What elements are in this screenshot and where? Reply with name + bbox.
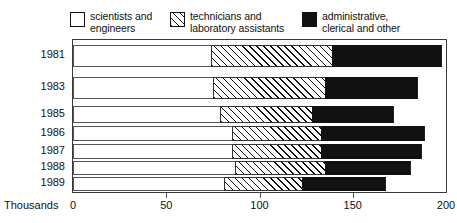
y-tick-label-1981: 1981 — [41, 49, 65, 60]
bar-segment-1985-s0[interactable] — [73, 106, 220, 123]
bar-segment-1987-s2[interactable] — [321, 144, 422, 159]
y-tick-label-1988: 1988 — [41, 161, 65, 172]
x-tick-label-100: 100 — [250, 200, 268, 211]
black-swatch-icon — [302, 12, 317, 27]
bar-row-1989 — [73, 177, 446, 191]
legend-item-scientists-and-engineers: scientists and engineers — [70, 11, 152, 34]
y-axis-labels: 1981198319851986198719881989 — [0, 39, 70, 193]
x-tick-150 — [353, 193, 354, 198]
bar-row-1981 — [73, 45, 446, 67]
bar-segment-1987-s1[interactable] — [232, 144, 322, 159]
y-tick-label-1986: 1986 — [41, 127, 65, 138]
bar-segment-1989-s2[interactable] — [302, 177, 386, 191]
bar-segment-1986-s1[interactable] — [232, 126, 322, 141]
x-tick-100 — [260, 193, 261, 198]
legend-item-administrative-clerical-and-other: administrative, clerical and other — [302, 11, 400, 34]
bar-segment-1981-s2[interactable] — [332, 45, 442, 67]
bar-rows — [73, 40, 446, 192]
bar-row-1988 — [73, 161, 446, 175]
legend-label: scientists and engineers — [90, 11, 152, 34]
legend-label: administrative, clerical and other — [322, 11, 400, 34]
bar-segment-1989-s0[interactable] — [73, 177, 224, 191]
bar-segment-1985-s2[interactable] — [312, 106, 394, 123]
y-tick-label-1989: 1989 — [41, 177, 65, 188]
bar-segment-1989-s1[interactable] — [224, 177, 302, 191]
bar-segment-1983-s0[interactable] — [73, 77, 213, 99]
bar-segment-1986-s0[interactable] — [73, 126, 232, 141]
bar-segment-1983-s2[interactable] — [325, 77, 418, 99]
stacked-bar-1989[interactable] — [73, 177, 386, 191]
stacked-bar-1986[interactable] — [73, 126, 425, 141]
bar-row-1986 — [73, 126, 446, 141]
stacked-bar-1985[interactable] — [73, 106, 394, 123]
white-swatch-icon — [70, 12, 85, 27]
legend-label: technicians and laboratory assistants — [190, 11, 284, 34]
bar-segment-1988-s2[interactable] — [325, 161, 411, 175]
bar-segment-1981-s1[interactable] — [211, 45, 332, 67]
chart-figure: scientists and engineers technicians and… — [0, 0, 457, 223]
chart-legend: scientists and engineers technicians and… — [0, 0, 457, 36]
stacked-bar-1981[interactable] — [73, 45, 442, 67]
bar-row-1987 — [73, 144, 446, 159]
bar-segment-1987-s0[interactable] — [73, 144, 232, 159]
y-tick-label-1985: 1985 — [41, 108, 65, 119]
bar-segment-1986-s2[interactable] — [321, 126, 425, 141]
axis-units-label: Thousands — [4, 200, 58, 211]
bar-row-1983 — [73, 77, 446, 99]
x-tick-50 — [166, 193, 167, 198]
bar-segment-1983-s1[interactable] — [213, 77, 325, 99]
stacked-bar-1983[interactable] — [73, 77, 418, 99]
x-axis: 050100150200 — [72, 193, 447, 223]
y-tick-label-1987: 1987 — [41, 145, 65, 156]
bar-segment-1988-s0[interactable] — [73, 161, 235, 175]
x-tick-label-150: 150 — [344, 200, 362, 211]
x-tick-label-200: 200 — [437, 200, 455, 211]
bar-segment-1988-s1[interactable] — [235, 161, 325, 175]
plot-area — [72, 39, 447, 193]
y-tick-label-1983: 1983 — [41, 81, 65, 92]
hatched-swatch-icon — [170, 12, 185, 27]
stacked-bar-1987[interactable] — [73, 144, 422, 159]
bar-segment-1985-s1[interactable] — [220, 106, 311, 123]
bar-row-1985 — [73, 106, 446, 123]
bar-segment-1981-s0[interactable] — [73, 45, 211, 67]
x-tick-label-50: 50 — [160, 200, 172, 211]
stacked-bar-1988[interactable] — [73, 161, 411, 175]
x-tick-label-0: 0 — [70, 200, 76, 211]
legend-item-technicians-and-laboratory-assistants: technicians and laboratory assistants — [170, 11, 284, 34]
